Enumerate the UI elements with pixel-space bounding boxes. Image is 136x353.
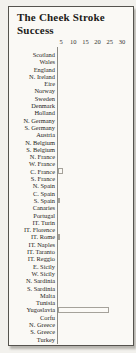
category-label: N. Greece xyxy=(11,321,55,328)
x-tick-label: 25 xyxy=(107,38,114,46)
category-label: England xyxy=(11,66,55,73)
category-label: IT. Naples xyxy=(11,241,55,248)
category-label: Norway xyxy=(11,87,55,94)
chart-title-line1: The Cheek Stroke xyxy=(17,11,127,24)
x-tick-label: 15 xyxy=(82,38,89,46)
bar-row: Yugoslavia xyxy=(9,306,133,313)
bar-row: S. France xyxy=(9,175,133,182)
category-label: S. Sardinia xyxy=(11,285,55,292)
bar-row: IT. Naples xyxy=(9,241,133,248)
bar-row: Eire xyxy=(9,80,133,87)
bar-rows: ScotlandWalesEnglandN. IrelandEireNorway… xyxy=(9,51,133,343)
category-label: Portugal xyxy=(11,212,55,219)
bar-row: Malta xyxy=(9,292,133,299)
chart-title-line2: Success xyxy=(17,24,127,37)
bar-row: S. Spain xyxy=(9,197,133,204)
bar-row: W. France xyxy=(9,160,133,167)
chart-title: The Cheek Stroke Success xyxy=(17,11,127,37)
bar-row: S. Sardinia xyxy=(9,285,133,292)
bar-row: N. Spain xyxy=(9,182,133,189)
bar-row: Portugal xyxy=(9,212,133,219)
bar-row: IT. Taranto xyxy=(9,248,133,255)
category-label: C. Spain xyxy=(11,190,55,197)
bar-row: Sweden xyxy=(9,95,133,102)
bar-row: N. Ireland xyxy=(9,73,133,80)
bar-row: England xyxy=(9,66,133,73)
x-axis-tick-labels: 51015202530 xyxy=(9,38,133,46)
category-label: Turkey xyxy=(11,336,55,343)
category-label: S. Germany xyxy=(11,124,55,131)
category-label: Canaries xyxy=(11,204,55,211)
x-tick-label: 20 xyxy=(94,38,101,46)
category-label: Sweden xyxy=(11,95,55,102)
x-tick-label: 10 xyxy=(70,38,77,46)
category-label: N. Germany xyxy=(11,117,55,124)
bar-row: Canaries xyxy=(9,204,133,211)
category-label: Eire xyxy=(11,80,55,87)
bar-row: W. Sicily xyxy=(9,270,133,277)
bar xyxy=(58,168,63,174)
category-label: Wales xyxy=(11,58,55,65)
bar-row: Corfu xyxy=(9,314,133,321)
bar-row: C. Spain xyxy=(9,190,133,197)
bar-row: N. Germany xyxy=(9,117,133,124)
chart-frame: The Cheek Stroke Success 51015202530 Sco… xyxy=(8,6,134,346)
bar-row: Wales xyxy=(9,58,133,65)
category-label: IT. Taranto xyxy=(11,248,55,255)
category-label: IT. Reggio xyxy=(11,255,55,262)
bar-row: Austria xyxy=(9,131,133,138)
category-label: S. Spain xyxy=(11,197,55,204)
category-label: N. Belgium xyxy=(11,139,55,146)
category-label: N. Ireland xyxy=(11,73,55,80)
bar-row: Turkey xyxy=(9,336,133,343)
category-label: C. France xyxy=(11,168,55,175)
bar-row: Scotland xyxy=(9,51,133,58)
bar-row: S. Greece xyxy=(9,328,133,335)
category-label: Corfu xyxy=(11,314,55,321)
bar-row: E. Sicily xyxy=(9,263,133,270)
category-label: S. France xyxy=(11,175,55,182)
category-label: Yugoslavia xyxy=(11,306,55,313)
bar-row: IT. Turin xyxy=(9,219,133,226)
bar-row: C. France xyxy=(9,168,133,175)
category-label: S. Greece xyxy=(11,328,55,335)
category-label: Scotland xyxy=(11,51,55,58)
bar xyxy=(58,307,109,313)
bar-row: N. Belgium xyxy=(9,139,133,146)
bar-row: Denmark xyxy=(9,102,133,109)
bar-row: S. Germany xyxy=(9,124,133,131)
x-tick-label: 30 xyxy=(119,38,126,46)
bar-row: IT. Florence xyxy=(9,226,133,233)
category-label: IT. Florence xyxy=(11,226,55,233)
category-label: W. Sicily xyxy=(11,270,55,277)
category-label: Denmark xyxy=(11,102,55,109)
bar-row: N. Sardinia xyxy=(9,277,133,284)
category-label: Austria xyxy=(11,131,55,138)
x-tick-label: 5 xyxy=(59,38,62,46)
category-label: Malta xyxy=(11,292,55,299)
bar-row: S. Belgium xyxy=(9,146,133,153)
category-label: E. Sicily xyxy=(11,263,55,270)
category-label: IT. Turin xyxy=(11,219,55,226)
bar-row: Holland xyxy=(9,109,133,116)
bar-row: IT. Reggio xyxy=(9,255,133,262)
category-label: Tunisia xyxy=(11,299,55,306)
category-label: N. Spain xyxy=(11,182,55,189)
category-label: N. Sardinia xyxy=(11,277,55,284)
category-label: N. France xyxy=(11,153,55,160)
bar-row: N. France xyxy=(9,153,133,160)
bar-row: Tunisia xyxy=(9,299,133,306)
category-label: S. Belgium xyxy=(11,146,55,153)
bar xyxy=(58,234,60,240)
category-label: IT. Rome xyxy=(11,233,55,240)
category-label: W. France xyxy=(11,160,55,167)
category-label: Holland xyxy=(11,109,55,116)
bar-row: N. Greece xyxy=(9,321,133,328)
bar-row: Norway xyxy=(9,87,133,94)
bar-row: IT. Rome xyxy=(9,233,133,240)
bar xyxy=(58,198,60,204)
